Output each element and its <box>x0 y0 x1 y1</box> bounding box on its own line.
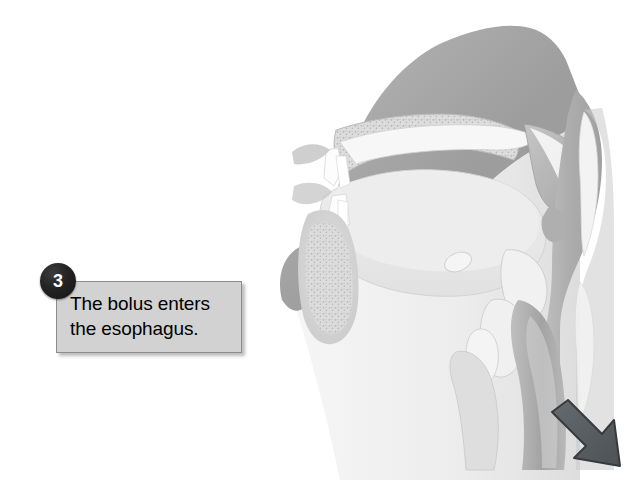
step-number-badge: 3 <box>40 263 76 299</box>
figure-canvas: The bolus enters the esophagus. 3 <box>0 0 643 497</box>
callout-text: The bolus enters the esophagus. <box>70 291 246 341</box>
step-number-label: 3 <box>53 272 63 290</box>
head-anatomy-illustration <box>280 0 643 480</box>
step-callout: The bolus enters the esophagus. 3 <box>40 263 250 358</box>
